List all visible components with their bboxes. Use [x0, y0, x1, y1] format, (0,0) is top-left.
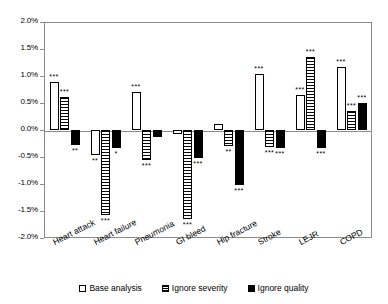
significance-marker: * — [104, 150, 128, 157]
bar-severity — [60, 97, 69, 130]
legend-item: Ignore severity — [162, 283, 228, 293]
legend-item: Base analysis — [79, 283, 141, 293]
bar-severity — [101, 130, 110, 215]
bar-quality — [235, 130, 244, 185]
legend-label: Ignore quality — [258, 283, 309, 293]
bar-group: ********* — [331, 22, 372, 238]
bar-group: ********* — [249, 22, 290, 238]
y-tick-label: -0.5% — [18, 151, 38, 160]
bar-group: ********* — [290, 22, 331, 238]
x-axis-labels: Heart attackHeart failurePneumoniaGI ble… — [44, 238, 372, 280]
legend-swatch-icon — [248, 285, 255, 292]
bar-group: ****** — [126, 22, 167, 238]
bar-group: ****** — [85, 22, 126, 238]
bar-quality — [317, 130, 326, 148]
bar-base — [132, 92, 141, 130]
bar-severity — [183, 130, 192, 219]
y-tick-label: 1.0% — [21, 70, 38, 79]
significance-marker: *** — [186, 160, 210, 167]
significance-marker: *** — [53, 88, 77, 95]
bar-base — [255, 74, 264, 130]
y-axis: 2.0%1.5%1.0%0.5%0.0%-0.5%-1.0%-1.5%-2.0% — [0, 22, 44, 238]
bar-base — [214, 124, 223, 130]
bar-severity — [347, 111, 356, 130]
significance-marker: *** — [42, 73, 66, 80]
y-tick-label: -1.0% — [18, 178, 38, 187]
legend-label: Ignore severity — [172, 283, 228, 293]
legend-swatch-icon — [162, 285, 169, 292]
bar-groups: ****************************************… — [44, 22, 372, 238]
legend-label: Base analysis — [89, 283, 141, 293]
bar-group: ***** — [208, 22, 249, 238]
bar-quality — [276, 130, 285, 148]
significance-marker: *** — [268, 150, 292, 157]
legend-swatch-icon — [79, 285, 86, 292]
bar-quality — [71, 130, 80, 145]
significance-marker: *** — [309, 150, 333, 157]
y-tick-label: 0.0% — [21, 124, 38, 133]
y-tick-label: 0.5% — [21, 97, 38, 106]
bar-base — [296, 95, 305, 130]
significance-marker: *** — [94, 217, 118, 224]
bar-severity — [265, 130, 274, 147]
bar-group: ******** — [44, 22, 85, 238]
bar-base — [173, 130, 182, 134]
significance-marker: ** — [63, 147, 87, 154]
bar-severity — [306, 57, 315, 130]
legend-item: Ignore quality — [248, 283, 309, 293]
bar-base — [337, 67, 346, 130]
significance-marker: *** — [124, 83, 148, 90]
y-tick-label: -2.0% — [18, 232, 38, 241]
significance-marker: *** — [247, 65, 271, 72]
bar-quality — [194, 130, 203, 158]
bar-quality — [358, 103, 367, 130]
bar-quality — [153, 130, 162, 137]
bar-severity — [142, 130, 151, 160]
bar-severity — [224, 130, 233, 146]
bar-quality — [112, 130, 121, 148]
significance-marker: *** — [299, 48, 323, 55]
grouped-bar-chart: 2.0%1.5%1.0%0.5%0.0%-0.5%-1.0%-1.5%-2.0%… — [0, 0, 388, 304]
y-tick-label: 2.0% — [21, 16, 38, 25]
significance-marker: *** — [329, 58, 353, 65]
y-tick-label: -1.5% — [18, 205, 38, 214]
bar-base — [91, 130, 100, 155]
bar-group: ****** — [167, 22, 208, 238]
significance-marker: *** — [135, 162, 159, 169]
significance-marker: *** — [350, 94, 374, 101]
chart-legend: Base analysisIgnore severityIgnore quali… — [0, 283, 388, 293]
significance-marker: *** — [227, 187, 251, 194]
y-tick-label: 1.5% — [21, 43, 38, 52]
